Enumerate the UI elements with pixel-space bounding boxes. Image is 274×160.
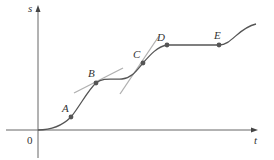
s-axis-label: s (28, 2, 32, 14)
label-e: E (213, 29, 221, 41)
label-c: C (133, 48, 141, 60)
point-c (141, 61, 146, 66)
label-b: B (88, 67, 95, 79)
origin-label: 0 (27, 134, 33, 146)
tangent-at-b (74, 68, 123, 93)
t-axis-arrow-icon (251, 128, 258, 133)
position-time-diagram: s t 0 A B C D E (0, 0, 274, 160)
t-axis-label: t (254, 134, 258, 146)
s-axis-arrow-icon (36, 5, 41, 12)
label-a: A (61, 102, 69, 114)
point-b (94, 81, 99, 86)
tangent-at-c (120, 36, 159, 94)
point-d (165, 43, 170, 48)
position-curve (38, 24, 256, 130)
label-d: D (156, 31, 165, 43)
point-e (217, 43, 222, 48)
point-a (69, 115, 74, 120)
